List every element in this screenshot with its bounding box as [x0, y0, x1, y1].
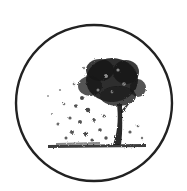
- emblem-ring: [16, 25, 172, 181]
- tree-emblem: [0, 0, 187, 191]
- tree-icon: [47, 58, 146, 148]
- tree-emblem-graphic: [0, 0, 187, 191]
